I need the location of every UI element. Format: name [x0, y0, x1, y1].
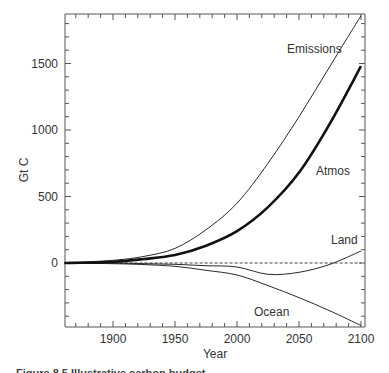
- x-tick-1900: 1900: [100, 332, 127, 346]
- x-tick-2100: 2100: [348, 332, 375, 346]
- series-ocean-line: [65, 263, 361, 326]
- y-axis-title: Gt C: [17, 157, 31, 182]
- y-tick-1000: 1000: [31, 123, 58, 137]
- x-axis-labels: 1900 1950 2000 2050 2100: [100, 332, 375, 346]
- y-tick-0: 0: [51, 256, 58, 270]
- x-tick-2000: 2000: [224, 332, 251, 346]
- figure-caption: Figure 8.5 Illustrative carbon budget...: [16, 366, 215, 373]
- label-atmos: Atmos: [316, 164, 350, 178]
- y-tick-1500: 1500: [31, 57, 58, 71]
- y-tick-500: 500: [38, 190, 58, 204]
- x-axis-title: Year: [203, 347, 227, 361]
- x-tick-2050: 2050: [286, 332, 313, 346]
- x-tick-1950: 1950: [162, 332, 189, 346]
- label-ocean: Ocean: [254, 305, 289, 319]
- label-emissions: Emissions: [287, 42, 342, 56]
- carbon-budget-chart: 1500 1000 500 0 Gt C 1900 1950 2000 2050…: [0, 0, 389, 373]
- y-axis-labels: 1500 1000 500 0: [31, 57, 58, 270]
- label-land: Land: [331, 233, 358, 247]
